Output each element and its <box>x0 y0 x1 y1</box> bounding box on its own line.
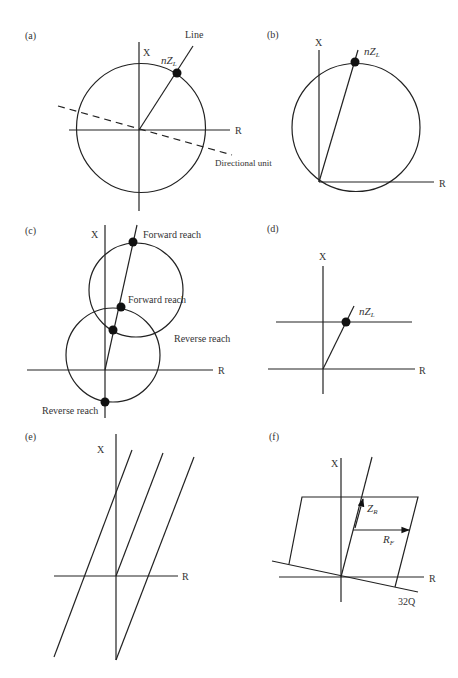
offset-mho-circle <box>292 64 420 192</box>
forward-reach-mid-label: Forward reach <box>128 294 186 305</box>
directional-unit-label: Directional unit <box>215 158 272 168</box>
panel-d-label: (d) <box>267 223 279 235</box>
forward-reach-mid-point <box>117 303 126 312</box>
reverse-reach-bottom-point <box>101 398 110 407</box>
impedance-characteristics-diagram: (a) R X Line nZL Directional unit (b) R … <box>0 0 458 678</box>
panel-f-label: (f) <box>269 431 279 443</box>
x-axis-label: X <box>97 444 105 455</box>
x-axis-label: X <box>315 37 323 48</box>
forward-circle <box>89 243 183 337</box>
rf-label: RF <box>382 533 395 547</box>
parallel-line-right <box>116 457 194 660</box>
r-axis-label: R <box>429 573 436 584</box>
panel-e: (e) R X <box>25 431 194 660</box>
nzl-point <box>173 69 182 78</box>
panel-d: (d) R X nZL <box>267 223 426 394</box>
zr-arrow <box>355 499 363 528</box>
x-axis-label: X <box>319 251 327 262</box>
quadrilateral-boundary <box>289 497 418 587</box>
reverse-reach-right-label: Reverse reach <box>174 333 230 344</box>
r-axis-label: R <box>419 365 426 376</box>
panel-a: (a) R X Line nZL Directional unit <box>25 29 272 211</box>
x-axis-label: X <box>91 229 99 240</box>
nzl-label: nZL <box>359 305 375 319</box>
panel-c: (c) R X Forward reach Forward reach Reve… <box>25 225 230 418</box>
panel-c-label: (c) <box>25 225 36 237</box>
forward-reach-top-point <box>129 238 138 247</box>
mho-circle <box>77 64 206 193</box>
reverse-circle <box>66 308 160 402</box>
nzl-label: nZL <box>161 54 177 68</box>
zr-label: ZR <box>367 502 378 516</box>
r-axis-label: R <box>439 178 446 189</box>
32q-label: 32Q <box>398 596 416 607</box>
panel-b-label: (b) <box>267 29 279 41</box>
panel-f: (f) R X ZR RF 32Q <box>269 431 436 607</box>
r-axis-label: R <box>235 125 242 136</box>
line-label: Line <box>185 29 204 40</box>
panel-a-label: (a) <box>25 30 36 42</box>
nzl-point <box>342 318 351 327</box>
nzl-label: nZL <box>364 45 380 59</box>
line-impedance <box>341 457 372 577</box>
panel-b: (b) R X nZL <box>267 29 446 192</box>
reverse-reach-point <box>109 326 118 335</box>
line-impedance <box>319 50 358 182</box>
x-axis-label: X <box>331 458 339 469</box>
r-axis-label: R <box>218 365 225 376</box>
forward-reach-top-label: Forward reach <box>143 229 201 240</box>
nzl-point <box>351 58 360 67</box>
r-axis-label: R <box>182 571 189 582</box>
x-axis-label: X <box>143 47 151 58</box>
panel-e-label: (e) <box>25 431 36 443</box>
parallel-line-left <box>54 450 132 657</box>
line-impedance <box>323 306 354 369</box>
reverse-reach-bottom-label: Reverse reach <box>42 405 98 416</box>
